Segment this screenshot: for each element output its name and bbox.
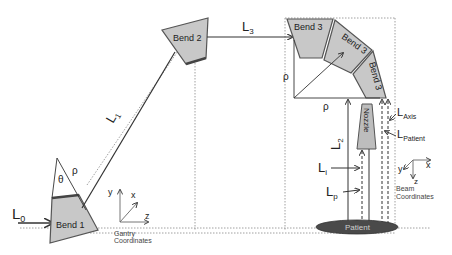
label-L3: L3 [242, 19, 254, 36]
nozzle: Nozzle [357, 104, 376, 149]
label-theta: θ [58, 174, 64, 185]
beam-z-label: z [414, 177, 418, 186]
label-L1: L1 [103, 107, 124, 126]
label-LAxis: LAxis [397, 106, 417, 120]
label-L2: L2 [328, 138, 345, 150]
bend1-magnet: Bend 1 [50, 195, 98, 243]
bend2-label: Bend 2 [173, 33, 202, 43]
label-L0: L0 [12, 205, 25, 224]
gantry-y-label: y [108, 187, 113, 197]
label-rho-bend1: ρ [72, 165, 78, 176]
pointer-LPatient [385, 131, 396, 136]
label-Lp: Lp [326, 184, 338, 201]
gantry-x-label: x [131, 190, 136, 200]
bend2-magnet: Bend 2 [162, 18, 208, 64]
patient: Patient [316, 220, 398, 234]
pointer-Lp [343, 190, 359, 192]
beam-L1 [82, 52, 175, 208]
gantry-z-label: z [145, 211, 150, 221]
gantry-caption-2: Coordinates [114, 237, 152, 244]
beam-y-label: y [398, 164, 403, 174]
beam-x-label: x [426, 160, 431, 170]
patient-label: Patient [345, 223, 371, 232]
label-rho-horizontal: ρ [323, 101, 329, 112]
beam-caption-2: Coordinates [396, 193, 434, 200]
bend1-label: Bend 1 [56, 220, 85, 230]
nozzle-label: Nozzle [362, 108, 371, 133]
bend3a-label: Bend 3 [294, 22, 323, 32]
beam-caption-1: Beam [396, 185, 414, 192]
label-Li: Li [318, 160, 327, 177]
label-rho-vertical: ρ [283, 71, 289, 82]
label-LPatient: LPatient [397, 128, 425, 142]
gantry-diagram: L0 Bend 1 θ ρ L1 Bend 2 L3 Bend 3 Bend 3… [0, 0, 452, 255]
